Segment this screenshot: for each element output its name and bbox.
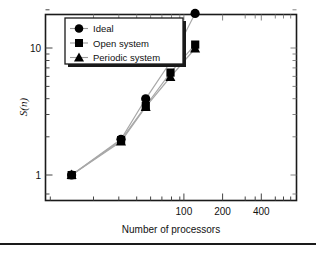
legend-label-open-system: Open system (93, 38, 149, 49)
figure-canvas: 10 1 100 200 400 Number of processors S(… (0, 0, 316, 253)
data-point (191, 9, 200, 18)
y-axis-title: S(n) (17, 98, 30, 117)
x-tick-label-100: 100 (176, 206, 193, 217)
y-tick-label-10: 10 (30, 43, 42, 54)
x-axis-title: Number of processors (122, 224, 220, 235)
legend-label-ideal: Ideal (93, 23, 114, 34)
legend-shadow-bottom (68, 64, 186, 67)
x-tick-labels: 100 200 400 (176, 206, 271, 217)
y-tick-label-1: 1 (35, 170, 41, 181)
legend-shadow-right (183, 21, 186, 67)
legend[interactable]: Ideal Open system Periodic system (65, 18, 186, 67)
x-tick-label-200: 200 (214, 206, 231, 217)
x-tick-label-400: 400 (253, 206, 270, 217)
square-marker-icon (75, 39, 83, 47)
legend-label-periodic-system: Periodic system (93, 52, 160, 63)
circle-marker-icon (75, 24, 84, 33)
legend-entry-open-system[interactable]: Open system (70, 38, 149, 49)
bottom-divider (0, 243, 316, 245)
